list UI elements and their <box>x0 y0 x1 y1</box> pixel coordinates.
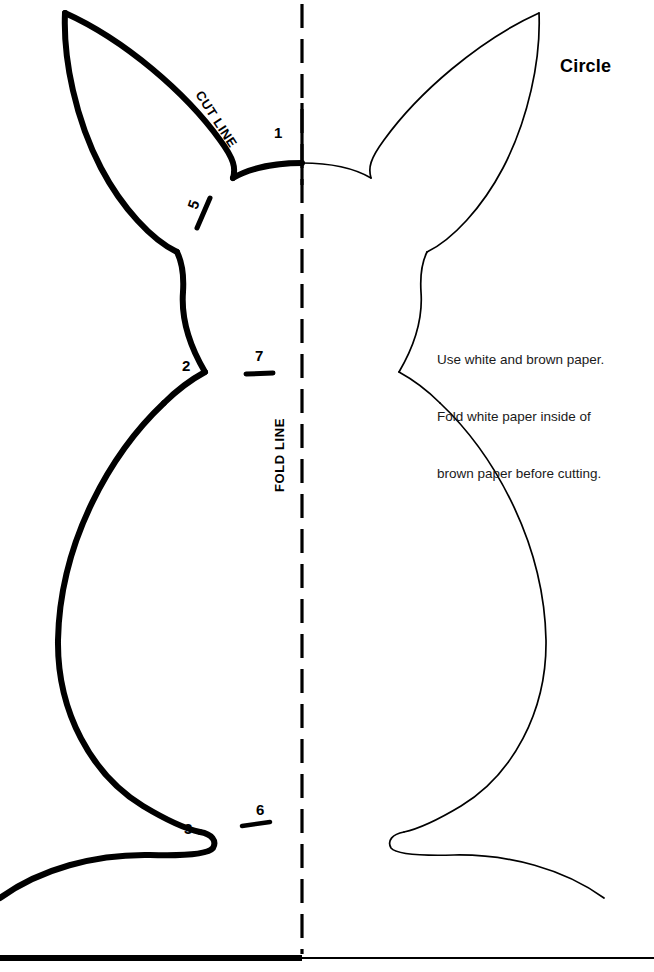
instructions-line-1: Use white and brown paper. <box>437 350 604 369</box>
page-title: Circle <box>560 56 611 77</box>
left-ear-base-notch <box>233 163 302 178</box>
left-neck-notch <box>164 372 205 403</box>
left-body-curve <box>58 403 200 832</box>
marker-2-number: 2 <box>182 357 190 374</box>
template-page: Circle Use white and brown paper. Fold w… <box>0 0 654 972</box>
instructions-line-3: brown paper before cutting. <box>437 464 604 483</box>
right-head-curve <box>399 252 427 372</box>
left-half-cut-outline <box>0 13 302 898</box>
left-ear-outer-edge <box>65 13 177 252</box>
marker-7-number: 7 <box>255 347 263 364</box>
fold-line-label: FOLD LINE <box>272 418 287 492</box>
instructions-block: Use white and brown paper. Fold white pa… <box>437 312 604 521</box>
left-head-curve <box>177 252 205 372</box>
marker-7-tick <box>246 373 273 374</box>
marker-3-number: 3 <box>184 820 192 837</box>
right-ear-base-notch <box>302 163 371 178</box>
left-ear-path <box>65 13 225 209</box>
marker-6-number: 6 <box>256 801 264 818</box>
right-ear-outer-edge <box>427 13 539 252</box>
right-ear-inner-edge <box>370 13 539 178</box>
marker-1-number: 1 <box>274 124 282 141</box>
right-foot-curve <box>390 832 604 898</box>
left-foot-curve <box>0 832 214 898</box>
instructions-line-2: Fold white paper inside of <box>437 407 604 426</box>
marker-6-tick <box>242 822 270 826</box>
right-neck-notch <box>399 372 440 403</box>
